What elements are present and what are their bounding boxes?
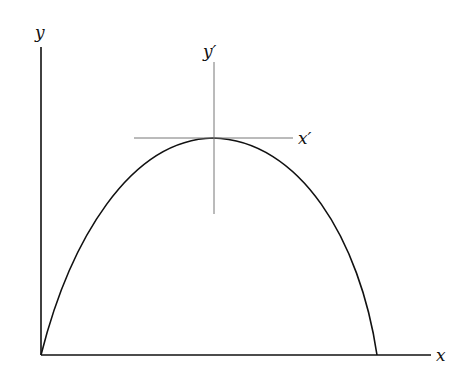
x-axis-label: x <box>436 345 446 365</box>
diagram-canvas: y x y′ x′ <box>0 0 465 374</box>
parabola-curve <box>41 138 377 355</box>
x-prime-label: x′ <box>298 128 312 148</box>
y-axis-label: y <box>34 22 45 42</box>
y-prime-label: y′ <box>202 41 217 61</box>
